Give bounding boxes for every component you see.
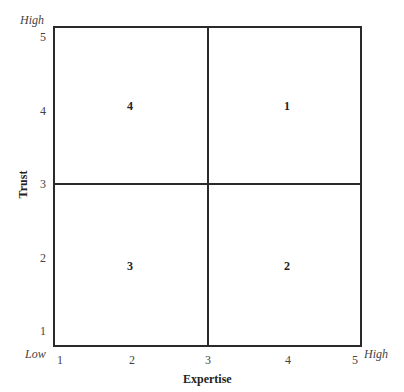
y-tick-3: 3 [32, 177, 46, 192]
y-axis-title: Trust [16, 160, 31, 210]
x-tick-5: 5 [345, 353, 365, 368]
y-anchor-high: High [20, 13, 44, 28]
quadrant-label-top-right: 1 [277, 99, 297, 114]
horizontal-divider [53, 183, 362, 185]
y-tick-2: 2 [32, 251, 46, 266]
x-tick-2: 2 [122, 353, 142, 368]
y-tick-4: 4 [32, 104, 46, 119]
vertical-divider [207, 26, 209, 347]
x-tick-1: 1 [50, 353, 70, 368]
quadrant-label-bottom-right: 2 [277, 259, 297, 274]
x-axis-title: Expertise [183, 372, 232, 387]
quadrant-label-top-left: 4 [120, 99, 140, 114]
y-tick-1: 1 [32, 324, 46, 339]
x-anchor-high: High [364, 347, 388, 362]
x-tick-3: 3 [198, 353, 218, 368]
x-anchor-low: Low [25, 347, 46, 362]
y-tick-5: 5 [32, 30, 46, 45]
x-tick-4: 4 [278, 353, 298, 368]
quadrant-label-bottom-left: 3 [120, 259, 140, 274]
